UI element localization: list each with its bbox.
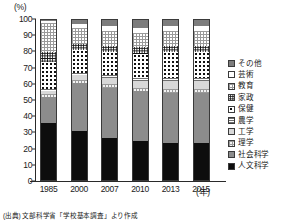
x-axis-tick-2010: 2010	[123, 185, 157, 194]
bar-segment-shakai-1985	[41, 97, 56, 123]
bar-segment-kasei-2007	[102, 46, 117, 52]
bar-segment-kasei-2000	[72, 44, 87, 50]
bar-segment-kougaku-2010	[133, 81, 148, 87]
x-axis-unit-label: (年)	[196, 185, 210, 197]
x-axis-tick-2013: 2013	[154, 185, 188, 194]
bar-segment-geijutsu-2007	[102, 26, 117, 31]
bar-segment-rigaku-2010	[133, 88, 148, 91]
bar-segment-kougaku-2007	[102, 78, 117, 84]
chart-legend: その他芸術教育家政保健農学工学理学社会科学人文科学	[228, 58, 288, 172]
legend-swatch-kyouiku-icon	[228, 83, 235, 90]
bar-segment-kyouiku-2010	[133, 33, 148, 48]
legend-label: 教育	[238, 82, 254, 90]
bar-segment-jinbun-2010	[133, 141, 148, 180]
legend-label: 芸術	[238, 71, 254, 79]
bar-segment-shakai-2015	[194, 93, 209, 143]
legend-swatch-nougaku-icon	[228, 117, 235, 124]
bar-segment-geijutsu-1985	[41, 21, 56, 23]
bar-segment-hoken-2000	[72, 50, 87, 73]
bar-segment-sonota-2013	[163, 19, 178, 26]
x-axis-tick-1985: 1985	[32, 185, 66, 194]
bar-segment-jinbun-2007	[102, 138, 117, 180]
bar-segment-kougaku-1985	[41, 91, 56, 94]
bar-segment-jinbun-2000	[72, 131, 87, 180]
bar-segment-hoken-2010	[133, 54, 148, 78]
bar-segment-nougaku-2010	[133, 78, 148, 81]
legend-swatch-rigaku-icon	[228, 140, 235, 147]
legend-item-shakai[interactable]: 社会科学	[228, 149, 288, 160]
bar-segment-geijutsu-2000	[72, 25, 87, 28]
legend-item-hoken[interactable]: 保健	[228, 104, 288, 115]
y-axis-tick-mark	[32, 35, 36, 36]
bar-segment-jinbun-2015	[194, 143, 209, 180]
legend-item-kasei[interactable]: 家政	[228, 92, 288, 103]
x-axis-line	[30, 181, 226, 182]
bar-1985[interactable]	[40, 19, 57, 181]
legend-swatch-hoken-icon	[228, 106, 235, 113]
bar-segment-rigaku-2013	[163, 89, 178, 92]
bar-segment-kougaku-2015	[194, 81, 209, 89]
legend-label: その他	[238, 60, 261, 68]
legend-item-geijutsu[interactable]: 芸術	[228, 69, 288, 80]
legend-label: 家政	[238, 94, 254, 102]
bar-2007[interactable]	[101, 19, 118, 181]
legend-label: 工学	[238, 128, 254, 136]
y-axis-tick-mark	[32, 100, 36, 101]
bar-segment-kougaku-2013	[163, 81, 178, 89]
y-axis-tick-mark	[32, 148, 36, 149]
legend-item-nougaku[interactable]: 農学	[228, 115, 288, 126]
bar-segment-hoken-1985	[41, 62, 56, 90]
source-note: (出典) 文部科学省「学校基本調査」より作成	[3, 210, 138, 220]
bar-segment-nougaku-2015	[194, 78, 209, 81]
bar-segment-kasei-2015	[194, 46, 209, 52]
bar-segment-kyouiku-1985	[41, 23, 56, 52]
y-axis-unit-label: (%)	[14, 2, 26, 12]
bar-2015[interactable]	[193, 19, 210, 181]
bar-segment-nougaku-1985	[41, 89, 56, 91]
legend-swatch-shakai-icon	[228, 151, 235, 158]
bar-segment-nougaku-2000	[72, 73, 87, 75]
legend-label: 人文科学	[238, 162, 269, 170]
bar-segment-hoken-2007	[102, 52, 117, 75]
y-axis-tick-mark	[32, 164, 36, 165]
bar-segment-kyouiku-2000	[72, 28, 87, 44]
bar-segment-rigaku-2007	[102, 84, 117, 87]
legend-item-kougaku[interactable]: 工学	[228, 126, 288, 137]
y-axis-tick-mark	[32, 181, 36, 182]
y-axis-tick-mark	[32, 19, 36, 20]
bar-segment-shakai-2010	[133, 91, 148, 141]
bar-segment-nougaku-2007	[102, 75, 117, 78]
legend-item-sonota[interactable]: その他	[228, 58, 288, 69]
bar-segment-nougaku-2013	[163, 78, 178, 81]
bar-segment-rigaku-2000	[72, 80, 87, 83]
bar-segment-jinbun-2013	[163, 143, 178, 180]
legend-label: 保健	[238, 105, 254, 113]
legend-item-kyouiku[interactable]: 教育	[228, 81, 288, 92]
bar-segment-jinbun-1985	[41, 123, 56, 180]
bar-segment-rigaku-1985	[41, 94, 56, 97]
legend-item-jinbun[interactable]: 人文科学	[228, 161, 288, 172]
y-axis-tick-mark	[32, 83, 36, 84]
bar-segment-kyouiku-2015	[194, 31, 209, 46]
bar-segment-kyouiku-2013	[163, 31, 178, 46]
y-axis-tick-mark	[32, 67, 36, 68]
bar-2010[interactable]	[132, 19, 149, 181]
bar-segment-geijutsu-2010	[133, 28, 148, 33]
bar-2000[interactable]	[71, 19, 88, 181]
stacked-bar-chart: (%) 0102030405060708090100 1985200020072…	[0, 0, 290, 223]
legend-label: 農学	[238, 117, 254, 125]
bar-segment-kyouiku-2007	[102, 31, 117, 46]
y-axis-tick-mark	[32, 116, 36, 117]
y-axis-tick-mark	[32, 51, 36, 52]
bar-segment-kasei-2013	[163, 46, 178, 52]
x-axis-tick-2000: 2000	[62, 185, 96, 194]
bar-segment-geijutsu-2013	[163, 26, 178, 31]
legend-swatch-jinbun-icon	[228, 163, 235, 170]
bar-segment-kasei-1985	[41, 52, 56, 62]
legend-swatch-geijutsu-icon	[228, 71, 235, 78]
bar-2013[interactable]	[162, 19, 179, 181]
bar-segment-kougaku-2000	[72, 75, 87, 80]
legend-item-rigaku[interactable]: 理学	[228, 138, 288, 149]
bar-segment-hoken-2013	[163, 52, 178, 78]
bar-segment-shakai-2007	[102, 88, 117, 138]
